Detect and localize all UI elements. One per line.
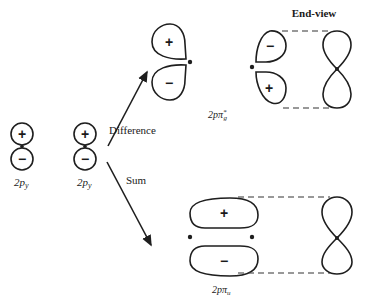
antibonding-end-view xyxy=(282,31,351,108)
minus-sign: − xyxy=(18,151,26,167)
minus-sign: − xyxy=(220,253,228,269)
plus-sign: + xyxy=(265,80,273,96)
minus-sign: − xyxy=(81,151,89,167)
difference-label: Difference xyxy=(109,124,156,136)
bonding-end-view xyxy=(238,197,352,274)
sum-arrow: Sum xyxy=(107,162,151,245)
plus-sign: + xyxy=(81,126,89,142)
sum-label: Sum xyxy=(126,174,147,186)
orbital-label: 2py xyxy=(77,176,92,190)
orbital-label: 2py xyxy=(14,176,29,190)
bonding-label: 2pπu xyxy=(212,284,231,297)
plus-sign: + xyxy=(18,126,26,142)
mo-diagram: + − 2py + − 2py Difference Sum + − xyxy=(0,0,366,302)
minus-sign: − xyxy=(165,75,173,91)
antibonding-label: 2pπ*g xyxy=(208,108,228,122)
plus-sign: + xyxy=(220,205,228,221)
end-view-label: End-view xyxy=(292,7,337,19)
minus-sign: − xyxy=(266,38,274,54)
difference-arrow: Difference xyxy=(108,72,156,146)
bonding-orbital-side-view: + − 2pπu xyxy=(188,198,258,297)
plus-sign: + xyxy=(165,34,173,50)
atomic-orbital-2py-2: + − 2py xyxy=(74,123,96,190)
atomic-orbital-2py-1: + − 2py xyxy=(11,123,33,190)
antibonding-orbital-side-view: + − − + 2pπ*g xyxy=(152,24,286,122)
